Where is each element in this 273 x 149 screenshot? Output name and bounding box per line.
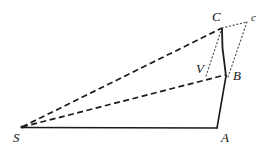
label-point-C: C: [212, 10, 221, 23]
label-point-c-lower: c: [251, 12, 256, 23]
solid-edge-B-C: [222, 29, 226, 76]
label-point-A: A: [221, 131, 229, 144]
solid-edge-S-A: [22, 128, 217, 129]
label-point-S: S: [13, 131, 20, 144]
geometry-diagram: S A B C c V: [0, 0, 273, 149]
dashed-ray-S-C: [22, 28, 222, 127]
vertex-dot-S: [20, 125, 23, 128]
dashed-ray-S-B: [22, 75, 225, 127]
dotted-guide-C-V: [206, 28, 222, 76]
label-point-V: V: [196, 62, 204, 75]
dotted-guide-C-c: [222, 22, 247, 28]
label-point-B: B: [233, 69, 241, 82]
solid-edge-A-B: [217, 76, 226, 128]
